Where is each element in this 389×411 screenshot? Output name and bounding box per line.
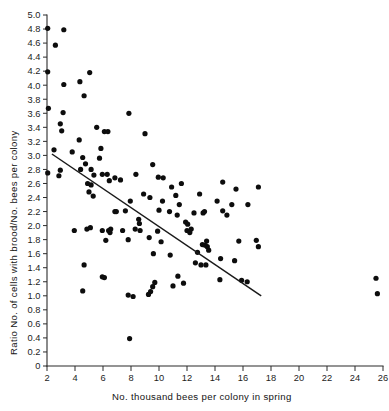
- data-point: [77, 79, 82, 84]
- data-point: [107, 178, 112, 183]
- data-point: [151, 251, 156, 256]
- data-point: [46, 106, 51, 111]
- data-point: [206, 248, 211, 253]
- x-axis: 2468101214161820222426: [44, 366, 388, 383]
- data-point: [150, 162, 155, 167]
- data-point: [236, 238, 241, 243]
- data-point: [61, 110, 66, 115]
- data-point: [100, 172, 105, 177]
- x-axis-title: No. thousand bees per colony in spring: [112, 391, 292, 402]
- data-point: [197, 191, 202, 196]
- y-tick-label: 1.0: [28, 291, 41, 301]
- data-point: [61, 27, 66, 32]
- data-point: [181, 281, 186, 286]
- x-tick-label: 22: [322, 373, 332, 383]
- y-axis: 00.20.40.60.81.01.21.41.61.82.02.22.42.6…: [28, 10, 47, 371]
- y-tick-label: 0.2: [28, 347, 41, 357]
- data-point: [146, 292, 151, 297]
- x-tick-label: 6: [100, 373, 105, 383]
- y-tick-label: 1.4: [28, 263, 41, 273]
- data-point: [58, 168, 63, 173]
- y-tick-label: 2.2: [28, 207, 41, 217]
- x-tick-label: 12: [182, 373, 192, 383]
- data-point: [94, 125, 99, 130]
- data-point: [256, 184, 261, 189]
- y-tick-label: 2.6: [28, 179, 41, 189]
- x-tick-label: 10: [154, 373, 164, 383]
- data-point: [156, 175, 161, 180]
- data-point: [58, 121, 63, 126]
- y-tick-label: 2.4: [28, 193, 41, 203]
- data-point: [56, 173, 61, 178]
- x-tick-label: 8: [128, 373, 133, 383]
- y-tick-label: 5.0: [28, 10, 41, 20]
- data-point: [150, 284, 155, 289]
- data-point: [170, 283, 175, 288]
- data-point: [87, 70, 92, 75]
- data-point: [72, 228, 77, 233]
- data-point: [102, 275, 107, 280]
- data-point: [147, 195, 152, 200]
- data-point: [118, 177, 123, 182]
- y-tick-label: 4.8: [28, 24, 41, 34]
- data-point: [169, 184, 174, 189]
- data-point: [112, 175, 117, 180]
- data-point: [147, 235, 152, 240]
- x-tick-label: 16: [238, 373, 248, 383]
- data-point: [220, 208, 225, 213]
- data-point: [98, 146, 103, 151]
- data-point: [120, 228, 125, 233]
- data-point: [51, 147, 56, 152]
- data-point: [82, 93, 87, 98]
- data-point: [89, 182, 94, 187]
- y-tick-label: 0.8: [28, 305, 41, 315]
- y-tick-label: 3.8: [28, 95, 41, 105]
- data-point: [245, 279, 250, 284]
- data-point: [373, 276, 378, 281]
- data-point: [189, 227, 194, 232]
- data-point: [105, 129, 110, 134]
- data-point: [45, 170, 50, 175]
- data-point: [127, 336, 132, 341]
- x-tick-label: 20: [294, 373, 304, 383]
- data-point: [137, 221, 142, 226]
- y-tick-label: 2.8: [28, 165, 41, 175]
- data-point: [80, 288, 85, 293]
- data-point: [177, 202, 182, 207]
- data-point: [59, 128, 64, 133]
- data-point: [133, 227, 138, 232]
- chart-canvas: 00.20.40.60.81.01.21.41.61.82.02.22.42.6…: [0, 0, 389, 411]
- data-point: [123, 208, 128, 213]
- x-tick-label: 24: [350, 373, 360, 383]
- data-point: [160, 198, 165, 203]
- data-point: [193, 260, 198, 265]
- data-point: [229, 202, 234, 207]
- data-point: [155, 229, 160, 234]
- data-point: [131, 294, 136, 299]
- data-point: [224, 212, 229, 217]
- y-axis-title: Ratio No. of cells with brood/No. bees p…: [8, 130, 19, 355]
- data-point: [175, 212, 180, 217]
- data-point: [97, 156, 102, 161]
- y-tick-label: 3.4: [28, 123, 41, 133]
- data-point: [103, 238, 108, 243]
- data-point: [161, 175, 166, 180]
- data-point: [375, 291, 380, 296]
- data-point: [191, 210, 196, 215]
- y-tick-label: 1.6: [28, 249, 41, 259]
- data-point: [198, 262, 203, 267]
- data-point: [156, 208, 161, 213]
- data-point: [91, 194, 96, 199]
- data-point: [133, 172, 138, 177]
- data-point: [86, 189, 91, 194]
- y-tick-label: 4.0: [28, 81, 41, 91]
- data-point: [218, 256, 223, 261]
- data-point: [77, 137, 82, 142]
- x-tick-label: 2: [44, 373, 49, 383]
- data-point: [215, 198, 220, 203]
- data-point: [138, 228, 143, 233]
- y-tick-label: 3.0: [28, 151, 41, 161]
- data-point: [185, 222, 190, 227]
- data-point: [232, 258, 237, 263]
- y-tick-label: 0.4: [28, 333, 41, 343]
